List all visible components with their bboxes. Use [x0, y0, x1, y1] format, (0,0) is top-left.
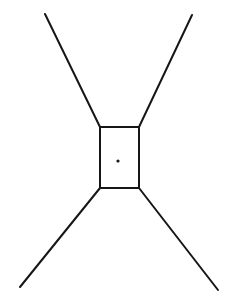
center-dot [116, 159, 119, 162]
line-diagram [0, 0, 238, 299]
canvas-background [0, 0, 238, 299]
figure-canvas [0, 0, 238, 299]
